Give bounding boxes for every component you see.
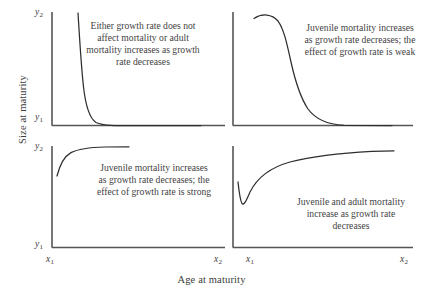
panel-top-right-caption: Juvenile mortality increases as growth r…: [302, 22, 418, 58]
tick-y1-bottom-left: y1: [35, 239, 43, 251]
tick-y1-top-left-base: y: [35, 112, 39, 122]
tick-y2-bottom-left-sub: 2: [40, 145, 44, 153]
tick-x2-bottom-left: x2: [214, 254, 222, 266]
tick-x1-bottom-right-base: x: [246, 254, 250, 264]
tick-x2-bottom-right-base: x: [400, 254, 404, 264]
tick-x2-bottom-right: x2: [400, 254, 408, 266]
tick-x1-bottom-right-sub: 1: [251, 258, 255, 266]
tick-y2-top-left-sub: 2: [40, 11, 44, 19]
panel-top-left-caption: Either growth rate does not affect morta…: [82, 20, 204, 68]
tick-y2-bottom-left: y2: [35, 141, 43, 153]
figure-container: Size at maturity Age at maturity Either …: [0, 0, 423, 297]
tick-y1-bottom-left-base: y: [35, 239, 39, 249]
panel-bottom-right-caption: Juvenile and adult mortality increase as…: [292, 196, 410, 232]
tick-x1-bottom-left-base: x: [46, 254, 50, 264]
tick-x2-bottom-right-sub: 2: [405, 258, 409, 266]
tick-y1-top-left: y1: [35, 112, 43, 124]
tick-x1-bottom-left: x1: [46, 254, 54, 266]
tick-x1-bottom-left-sub: 1: [51, 258, 55, 266]
tick-y1-top-left-sub: 1: [40, 116, 44, 124]
tick-x2-bottom-left-base: x: [214, 254, 218, 264]
tick-y2-top-left-base: y: [35, 7, 39, 17]
tick-x2-bottom-left-sub: 2: [219, 258, 223, 266]
tick-y1-bottom-left-sub: 1: [40, 243, 44, 251]
tick-y2-bottom-left-base: y: [35, 141, 39, 151]
panel-bottom-left-caption: Juvenile mortality increases as growth r…: [95, 162, 213, 198]
tick-y2-top-left: y2: [35, 7, 43, 19]
y-axis-title: Size at maturity: [17, 40, 28, 180]
tick-x1-bottom-right: x1: [246, 254, 254, 266]
x-axis-title: Age at maturity: [0, 274, 423, 285]
